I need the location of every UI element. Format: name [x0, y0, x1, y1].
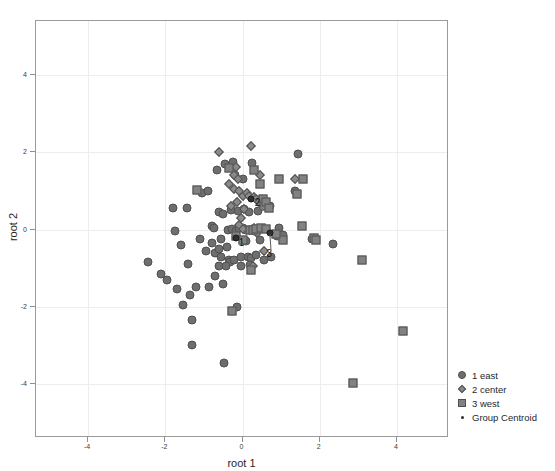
data-point — [272, 230, 281, 239]
gridline-horizontal — [36, 152, 447, 153]
y-axis-tick-label: -4 — [11, 379, 27, 386]
x-axis-title: root 1 — [35, 457, 448, 469]
data-point — [192, 282, 201, 291]
data-point — [329, 240, 338, 249]
data-point — [182, 204, 191, 213]
group-centroid-marker — [247, 196, 254, 203]
chart-legend: 1 east2 center3 westGroup Centroid — [455, 368, 555, 424]
x-axis-tick — [242, 437, 243, 442]
data-point — [348, 379, 357, 388]
legend-item-label: 1 east — [472, 370, 498, 381]
data-point — [196, 235, 205, 244]
data-point — [176, 240, 185, 249]
y-axis-tick — [30, 229, 35, 230]
y-axis-tick-label: 2 — [11, 148, 27, 155]
data-point — [246, 266, 255, 275]
x-axis-tick — [87, 437, 88, 442]
centroid-label-3: 3 — [266, 248, 272, 259]
data-point — [398, 326, 407, 335]
chart-canvas: 123 root 2 root 1 1 east2 center3 westGr… — [0, 0, 555, 471]
x-axis-tick-label: 0 — [240, 443, 244, 450]
circle-marker-icon — [455, 371, 469, 379]
data-point — [223, 242, 232, 251]
y-axis-tick-label: 0 — [11, 225, 27, 232]
legend-item[interactable]: Group Centroid — [455, 410, 555, 424]
data-point — [311, 236, 320, 245]
y-axis-tick — [30, 151, 35, 152]
data-point — [192, 186, 201, 195]
data-point — [204, 283, 213, 292]
data-point — [170, 227, 179, 236]
data-point — [255, 179, 264, 188]
data-point — [203, 186, 212, 195]
data-point — [227, 307, 236, 316]
centroid-label-2: 2 — [255, 196, 261, 207]
data-point — [169, 204, 178, 213]
centroid-label-1: 1 — [239, 236, 245, 247]
y-axis-tick-label: -2 — [11, 302, 27, 309]
gridline-horizontal — [36, 307, 447, 308]
dot-marker-icon — [455, 416, 469, 419]
y-axis-tick — [30, 383, 35, 384]
data-point — [299, 174, 308, 183]
data-point — [214, 147, 224, 157]
x-axis-tick-label: 4 — [394, 443, 398, 450]
x-axis-tick — [164, 437, 165, 442]
data-point — [236, 262, 245, 271]
data-point — [209, 223, 218, 232]
gridline-vertical — [397, 21, 398, 436]
diamond-marker-icon — [455, 386, 469, 392]
data-point — [178, 300, 187, 309]
data-point — [294, 150, 303, 159]
gridline-horizontal — [36, 75, 447, 76]
data-point — [211, 271, 220, 280]
legend-item[interactable]: 1 east — [455, 368, 555, 382]
y-axis-tick-label: 4 — [11, 71, 27, 78]
square-marker-icon — [455, 399, 469, 407]
data-point — [219, 279, 228, 288]
data-point — [188, 316, 197, 325]
y-axis-tick — [30, 74, 35, 75]
legend-item-label: 2 center — [472, 384, 506, 395]
legend-item[interactable]: 3 west — [455, 396, 555, 410]
data-point — [275, 174, 284, 183]
data-point — [298, 221, 307, 230]
plot-area: 123 — [35, 20, 448, 437]
x-axis-tick — [396, 437, 397, 442]
data-point — [292, 189, 301, 198]
data-point — [172, 285, 181, 294]
data-point — [143, 258, 152, 267]
gridline-vertical — [88, 21, 89, 436]
data-point — [163, 275, 172, 284]
gridline-horizontal — [36, 384, 447, 385]
legend-item-label: Group Centroid — [472, 412, 537, 423]
data-point — [222, 262, 231, 271]
gridline-vertical — [165, 21, 166, 436]
data-point — [224, 164, 233, 173]
x-axis-tick-label: -2 — [161, 443, 167, 450]
gridline-vertical — [320, 21, 321, 436]
x-axis-tick-label: 2 — [317, 443, 321, 450]
data-point — [188, 341, 197, 350]
x-axis-tick — [319, 437, 320, 442]
legend-item-label: 3 west — [472, 398, 499, 409]
y-axis-tick — [30, 306, 35, 307]
data-point — [246, 142, 256, 152]
data-point — [250, 165, 259, 174]
data-point — [201, 246, 210, 255]
legend-item[interactable]: 2 center — [455, 382, 555, 396]
data-point — [186, 291, 195, 300]
data-point — [264, 204, 273, 213]
data-point — [358, 255, 367, 264]
data-point — [184, 260, 193, 269]
data-point — [219, 358, 228, 367]
x-axis-tick-label: -4 — [84, 443, 90, 450]
